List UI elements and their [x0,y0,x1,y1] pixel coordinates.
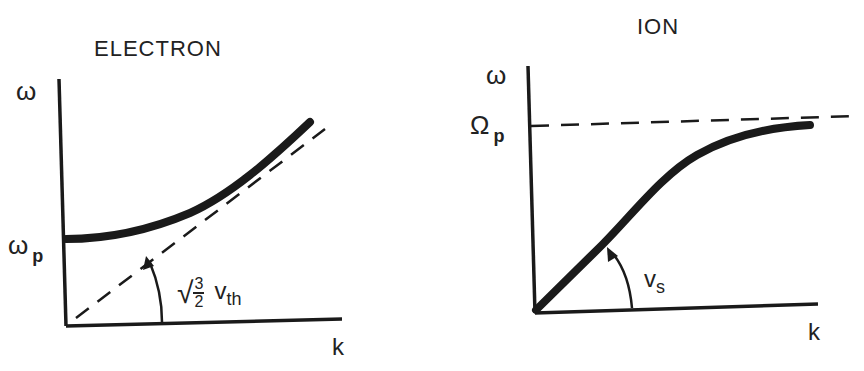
fraction-denominator: 2 [193,294,204,310]
sound-velocity-label: vs [644,265,665,298]
ion-x-axis [535,304,818,313]
electron-title: ELECTRON [94,36,222,62]
fraction-numerator: 3 [193,276,204,294]
ion-angle-arc [614,255,632,308]
electron-omega-p-label: ωp [8,230,43,261]
omega-subscript: p [32,246,43,266]
ion-y-axis-label: ω [486,60,506,91]
omega-symbol: ω [8,230,28,260]
electron-angle-arc [150,263,162,322]
ion-panel: ION ω Ωp vs k [432,0,864,371]
electron-x-axis-label: k [332,333,344,361]
electron-y-axis [59,79,66,326]
sqrt-icon: √ [177,276,193,309]
electron-x-axis [66,319,342,326]
v-subscript: s [656,277,665,297]
ion-title: ION [637,14,679,40]
thermal-velocity-label: vth [214,277,241,304]
ion-dispersion-curve [536,125,810,310]
electron-slope-annotation: √32vth [177,276,241,310]
electron-dispersion-curve [66,122,310,239]
v-symbol: v [644,265,656,292]
electron-y-axis-label: ω [16,76,36,107]
electron-panel: ELECTRON ω ωp √32vth k [0,0,432,371]
v-symbol: v [214,277,226,304]
v-subscript: th [226,288,241,308]
ion-y-axis [528,66,535,313]
ion-plot [432,0,864,371]
capital-omega-symbol: Ω [470,110,489,140]
ion-x-axis-label: k [808,318,820,346]
omega-subscript: p [493,126,504,146]
ion-omega-p-label: Ωp [470,110,504,141]
fraction: 32 [193,276,204,310]
